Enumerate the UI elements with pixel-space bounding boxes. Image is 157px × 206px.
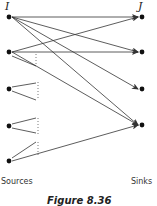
sinks-label: Sinks [131,177,152,186]
node-s2 [7,50,12,55]
network-diagram [0,0,157,206]
sink-set-label: J [138,0,142,13]
edge-s1-t3 [12,17,138,89]
sources-label: Sources [1,177,33,186]
node-s1 [7,15,12,20]
partial-stubs [12,56,36,158]
node-t1 [140,15,145,20]
node-s3 [7,87,12,92]
node-t3 [140,87,145,92]
edges [12,17,138,161]
ellipsis-dots [36,54,38,156]
figure-caption: Figure 8.36 [47,195,111,206]
node-t2 [140,50,145,55]
node-t4 [140,123,145,128]
source-set-label: I [5,0,9,13]
node-s5 [7,159,12,164]
edge-s5-t4 [12,125,138,161]
node-s4 [7,124,12,129]
edge-s1-t4 [12,17,138,125]
edge-s2-t4 [12,52,138,125]
